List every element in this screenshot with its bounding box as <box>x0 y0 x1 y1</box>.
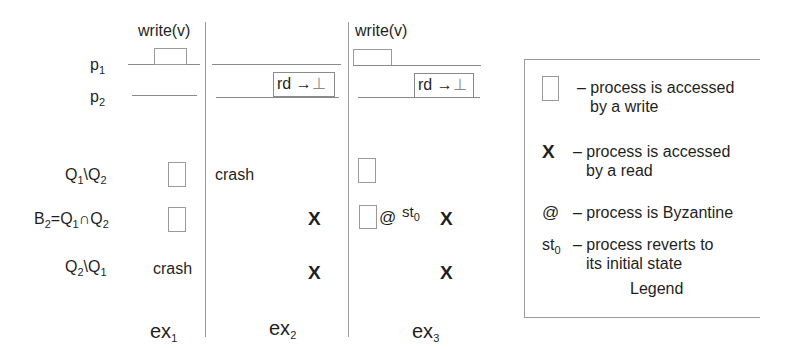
divider-ex1-ex2 <box>205 22 206 337</box>
legend-item-st0-line1: – process reverts to <box>573 235 714 254</box>
ex2-p2-timeline <box>216 97 339 98</box>
ex3-row2-st0: st0 <box>402 203 420 221</box>
ex1-write-op-box <box>154 48 187 65</box>
ex1-row2-write-square <box>168 207 186 232</box>
ex2-row1-crash: crash <box>215 166 254 184</box>
ex2-row2-read-x: X <box>308 209 321 229</box>
process-label-p2: p2 <box>90 88 105 106</box>
ex3-read-op-box: rd →⊥ <box>414 73 474 98</box>
ex1-write-label: write(v) <box>138 22 190 40</box>
ex3-p2-timeline <box>358 97 480 98</box>
ex3-write-op-box <box>353 49 392 66</box>
ex1-p2-timeline <box>132 95 197 96</box>
legend-title: Legend <box>630 279 683 298</box>
ex3-row2-write-square <box>359 205 377 229</box>
ex3-row2-byzantine-mark: @ <box>379 209 396 227</box>
ex3-write-label: write(v) <box>355 22 407 40</box>
legend-item-write-line2: by a write <box>590 97 658 116</box>
legend-byzantine-icon: @ <box>542 203 559 222</box>
ex2-row3-read-x: X <box>308 263 321 283</box>
legend-read-x-icon: X <box>542 142 555 162</box>
process-label-p1: p1 <box>90 56 105 74</box>
ex1-row3-crash: crash <box>153 260 192 278</box>
execution-label-ex2: ex2 <box>269 317 296 339</box>
execution-label-ex3: ex3 <box>412 320 439 342</box>
legend-item-st0-line2: its initial state <box>586 254 682 273</box>
legend-item-read-line2: by a read <box>586 161 653 180</box>
legend-item-write-line1: – process is accessed <box>577 78 734 97</box>
row-label-q2-minus-q1: Q2\Q1 <box>65 258 107 276</box>
legend-panel: – process is accessed by a write X – pro… <box>524 59 760 318</box>
row-label-b2-intersection: B2=Q1∩Q2 <box>34 210 109 228</box>
legend-item-read-line1: – process is accessed <box>573 142 730 161</box>
ex3-row1-write-square <box>358 158 376 183</box>
divider-ex2-ex3 <box>348 22 349 337</box>
execution-label-ex1: ex1 <box>150 320 177 342</box>
row-label-q1-minus-q2: Q1\Q2 <box>65 166 107 184</box>
ex1-row1-write-square <box>168 162 186 187</box>
legend-st0-icon: st0 <box>542 235 561 254</box>
ex3-p1-timeline <box>353 65 481 66</box>
ex3-row2-read-x: X <box>440 209 453 229</box>
ex2-p1-timeline <box>212 64 341 65</box>
legend-write-square-icon <box>542 76 559 101</box>
ex2-read-op-box: rd →⊥ <box>273 72 335 97</box>
legend-item-byzantine-line1: – process is Byzantine <box>573 203 733 222</box>
ex3-row3-read-x: X <box>440 263 453 283</box>
